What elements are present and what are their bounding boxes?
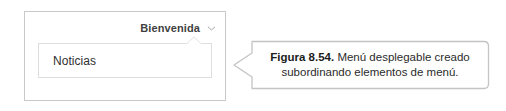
caption-line-2: subordinando elementos de menú. [281, 65, 458, 80]
dropdown-panel: Noticias [38, 43, 212, 78]
chevron-down-icon[interactable] [207, 24, 216, 33]
caption-line-1: Figura 8.54. Menú desplegable creado [270, 50, 469, 65]
dropdown-item-label: Noticias [53, 54, 96, 68]
caption-line-1-text: Menú desplegable creado [337, 51, 469, 63]
dropdown-item-noticias[interactable]: Noticias [53, 44, 211, 77]
menu-item-bienvenida[interactable]: Bienvenida [140, 22, 200, 34]
caption-figure-number: Figura 8.54. [270, 51, 334, 63]
ui-mock-frame: Bienvenida Noticias [24, 11, 226, 101]
caption-text: Figura 8.54. Menú desplegable creado sub… [258, 40, 482, 90]
figure-caption-callout: Figura 8.54. Menú desplegable creado sub… [232, 40, 490, 90]
menubar: Bienvenida [140, 22, 216, 34]
